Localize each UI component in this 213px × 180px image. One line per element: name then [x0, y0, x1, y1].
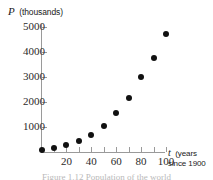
x-axis-unit: (years [175, 149, 197, 158]
x-tick [129, 147, 130, 152]
y-tick-label: 1000 [3, 120, 45, 132]
x-axis-variable: t [168, 147, 171, 158]
x-tick [91, 147, 92, 152]
data-point [138, 74, 144, 80]
data-point [113, 110, 119, 116]
y-tick-label: 2000 [3, 95, 45, 107]
data-point [88, 132, 94, 138]
x-tick [141, 147, 142, 152]
x-tick [166, 147, 167, 152]
y-axis-line [41, 24, 42, 153]
data-point [163, 31, 169, 37]
figure-caption: Figure 1.12 Population of the world [0, 172, 213, 180]
data-point [39, 147, 45, 153]
data-point [101, 123, 107, 129]
figure-screenshot: P (thousands) 10002000300040005000 20406… [0, 0, 213, 180]
data-point [51, 145, 57, 151]
x-tick [104, 147, 105, 152]
x-axis-unit-line2: since 1900 [168, 160, 206, 168]
scatter-plot: 10002000300040005000 20406080100 t (year… [0, 0, 213, 180]
data-point [63, 142, 69, 148]
x-axis-label: t (years since 1900 [168, 143, 206, 168]
y-tick-label: 5000 [3, 20, 45, 32]
y-tick-label: 3000 [3, 70, 45, 82]
data-point [76, 138, 82, 144]
x-tick [79, 147, 80, 152]
x-axis-line [41, 152, 165, 153]
x-tick [154, 147, 155, 152]
y-tick-label: 4000 [3, 45, 45, 57]
data-point [151, 55, 157, 61]
x-tick [116, 147, 117, 152]
data-point [126, 95, 132, 101]
